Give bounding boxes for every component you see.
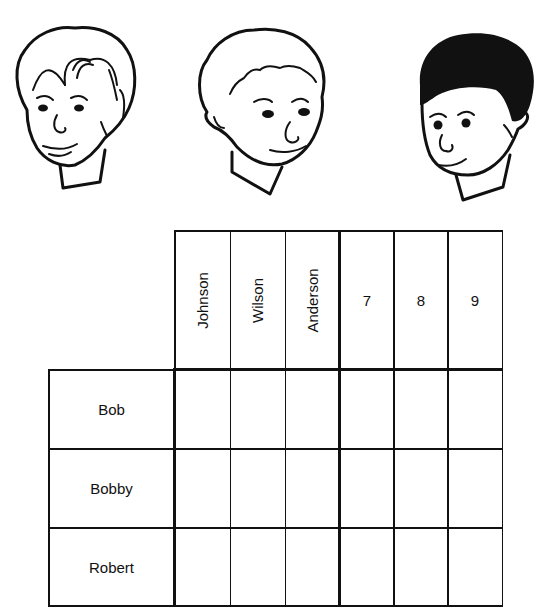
grid-line [48,448,503,450]
grid-line [48,605,503,607]
row-label-bob: Bob [49,370,174,448]
grid-line [447,230,449,607]
cell-robert-8[interactable] [395,528,448,606]
cell-bob-anderson[interactable] [286,371,339,448]
column-header-label: 8 [417,292,425,309]
column-header-label: Johnson [194,272,211,329]
cell-bobby-7[interactable] [341,449,394,527]
cell-bob-wilson[interactable] [231,371,285,448]
logic-grid: Johnson Wilson Anderson 7 8 9 Bob Bobby … [0,0,543,614]
column-header-7: 7 [340,231,394,369]
grid-line-thick [173,368,176,607]
cell-bobby-wilson[interactable] [231,449,285,527]
cell-bobby-anderson[interactable] [286,449,339,527]
grid-line [393,230,395,607]
row-label-bobby: Bobby [49,449,174,527]
column-header-wilson: Wilson [230,231,285,369]
grid-line [502,230,504,607]
column-header-9: 9 [448,231,502,369]
column-header-8: 8 [394,231,448,369]
cell-bob-8[interactable] [395,371,448,448]
cell-bob-9[interactable] [449,371,502,448]
column-header-johnson: Johnson [175,231,230,369]
cell-robert-wilson[interactable] [231,528,285,606]
cell-bob-7[interactable] [341,371,394,448]
grid-line-thick [338,230,341,607]
grid-line [174,230,176,370]
cell-bob-johnson[interactable] [176,371,230,448]
cell-bobby-9[interactable] [449,449,502,527]
grid-line [285,230,287,607]
column-header-label: 7 [363,292,371,309]
column-header-anderson: Anderson [285,231,339,369]
cell-robert-7[interactable] [341,528,394,606]
cell-robert-9[interactable] [449,528,502,606]
grid-line [230,230,232,607]
row-label-robert: Robert [49,528,174,606]
column-header-label: Anderson [304,268,321,332]
cell-robert-anderson[interactable] [286,528,339,606]
cell-bobby-johnson[interactable] [176,449,230,527]
grid-line [48,527,503,529]
cell-robert-johnson[interactable] [176,528,230,606]
grid-line [48,369,175,371]
column-header-label: 9 [471,292,479,309]
cell-bobby-8[interactable] [395,449,448,527]
grid-line [48,369,50,607]
column-header-label: Wilson [249,277,266,322]
